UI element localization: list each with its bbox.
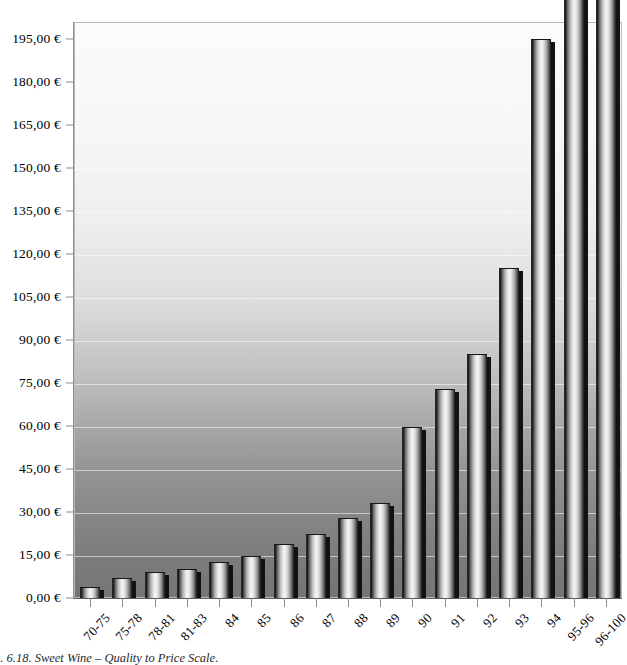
bar-slot	[402, 0, 422, 598]
y-axis-tick-label: 60,00 €	[19, 418, 61, 434]
bar[interactable]	[531, 39, 551, 598]
x-axis-tick	[284, 598, 285, 607]
y-axis-tick	[66, 512, 74, 513]
y-axis-tick-label: 75,00 €	[19, 375, 61, 391]
y-axis-tick	[66, 254, 74, 255]
x-axis-tick	[219, 598, 220, 607]
y-axis-tick-label: 180,00 €	[12, 74, 61, 90]
y-axis-tick-label: 135,00 €	[12, 203, 61, 219]
bar-slot	[499, 0, 519, 598]
x-axis-tick-label: 87	[318, 610, 339, 631]
bar-slot	[435, 0, 455, 598]
x-axis-tick	[251, 598, 252, 607]
y-axis-tick-label: 150,00 €	[12, 160, 61, 176]
bar-slot	[80, 0, 100, 598]
y-axis-tick	[66, 555, 74, 556]
bar[interactable]	[274, 544, 294, 598]
bar-slot	[338, 0, 358, 598]
bar[interactable]	[306, 534, 326, 599]
bar-slot	[564, 0, 584, 598]
x-axis-tick	[187, 598, 188, 607]
y-axis-tick	[66, 297, 74, 298]
x-axis-tick	[155, 598, 156, 607]
y-axis-tick-label: 120,00 €	[12, 246, 61, 262]
x-axis-tick-label: 88	[351, 610, 372, 631]
x-axis-tick	[316, 598, 317, 607]
bar[interactable]	[241, 556, 261, 598]
bar[interactable]	[370, 503, 390, 598]
x-axis-tick	[445, 598, 446, 607]
bar[interactable]	[145, 572, 165, 598]
x-axis-tick	[348, 598, 349, 607]
y-axis-tick	[66, 39, 74, 40]
x-axis-tick-label: 70-75	[80, 610, 113, 644]
bar-slot	[177, 0, 197, 598]
bar-slot	[145, 0, 165, 598]
bar-slot	[274, 0, 294, 598]
y-axis-tick-label: 195,00 €	[12, 31, 61, 47]
x-axis-tick-label: 92	[480, 610, 501, 631]
bar[interactable]	[564, 0, 584, 598]
y-axis-tick	[66, 82, 74, 83]
bar-slot	[112, 0, 132, 598]
bar-slot	[531, 0, 551, 598]
x-axis-tick	[541, 598, 542, 607]
x-axis-tick	[90, 598, 91, 607]
bar[interactable]	[596, 0, 616, 598]
y-axis-tick	[66, 211, 74, 212]
x-axis-tick	[412, 598, 413, 607]
x-axis-tick	[380, 598, 381, 607]
bar-slot	[467, 0, 487, 598]
y-axis-tick	[66, 469, 74, 470]
bar[interactable]	[467, 354, 487, 598]
x-axis-tick-label: 91	[447, 610, 468, 631]
y-axis-tick-label: 30,00 €	[19, 504, 61, 520]
bar[interactable]	[209, 562, 229, 598]
y-axis-tick-label: 0,00 €	[26, 590, 61, 606]
bar-slot	[209, 0, 229, 598]
figure-caption: g. 6.18. Sweet Wine – Quality to Price S…	[0, 651, 218, 665]
x-axis-tick-label: 75-78	[113, 610, 146, 644]
x-axis-tick-label: 86	[286, 610, 307, 631]
bars-layer	[74, 0, 622, 598]
x-axis-tick	[574, 598, 575, 607]
y-axis-tick-label: 105,00 €	[12, 289, 61, 305]
y-axis-tick	[66, 598, 74, 599]
y-axis-tick-label: 165,00 €	[12, 117, 61, 133]
bar[interactable]	[112, 578, 132, 598]
x-axis-tick-label: 93	[512, 610, 533, 631]
bar[interactable]	[499, 268, 519, 598]
x-axis-tick-label: 90	[415, 610, 436, 631]
y-axis-tick	[66, 383, 74, 384]
x-axis-tick-label: 78-81	[145, 610, 178, 644]
y-axis-tick-label: 45,00 €	[19, 461, 61, 477]
figure-sweet-wine-quality-to-price: 0,00 €15,00 €30,00 €45,00 €60,00 €75,00 …	[0, 0, 627, 665]
x-axis-tick-label: 94	[544, 610, 565, 631]
y-axis-tick	[66, 125, 74, 126]
y-axis-tick-label: 15,00 €	[19, 547, 61, 563]
y-axis-tick	[66, 426, 74, 427]
x-axis-tick-label: 81-83	[177, 610, 210, 644]
x-axis: 70-7575-7878-8181-8384858687888990919293…	[74, 598, 622, 650]
bar[interactable]	[338, 518, 358, 598]
y-axis-tick-label: 90,00 €	[19, 332, 61, 348]
bar-slot	[370, 0, 390, 598]
bar[interactable]	[402, 427, 422, 598]
y-axis-tick	[66, 340, 74, 341]
bar[interactable]	[177, 569, 197, 598]
bar-slot	[241, 0, 261, 598]
x-axis-tick	[122, 598, 123, 607]
x-axis-tick	[509, 598, 510, 607]
y-axis: 0,00 €15,00 €30,00 €45,00 €60,00 €75,00 …	[0, 0, 74, 620]
x-axis-tick	[606, 598, 607, 607]
bar-slot	[596, 0, 616, 598]
y-axis-tick	[66, 168, 74, 169]
x-axis-tick-label: 85	[254, 610, 275, 631]
bar[interactable]	[435, 389, 455, 598]
x-axis-tick-label: 89	[383, 610, 404, 631]
x-axis-tick-label: 84	[222, 610, 243, 631]
x-axis-tick-label: 96-100	[592, 610, 627, 649]
x-axis-tick	[477, 598, 478, 607]
bar[interactable]	[80, 587, 100, 598]
bar-slot	[306, 0, 326, 598]
